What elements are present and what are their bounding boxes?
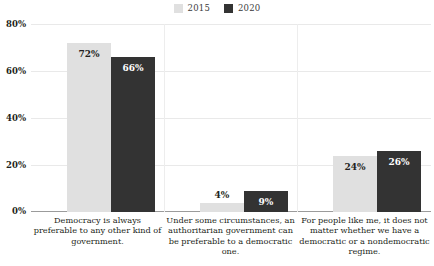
bar-2020-democracy-preferable[interactable]: 66%	[111, 57, 155, 212]
category-label-democracy-preferable: Democracy is always preferable to any ot…	[33, 215, 162, 246]
group-separator-1	[164, 24, 165, 212]
bar-2015-authoritarian-preferable[interactable]: 4%	[200, 203, 244, 212]
bar-2015-democracy-preferable[interactable]: 72%	[67, 43, 111, 212]
plot-area: 80% 60% 40% 20% 0% 72% 66% 4% 9% 24% 26%	[31, 24, 431, 212]
bar-2020-does-not-matter[interactable]: 26%	[377, 151, 421, 212]
group-separator-2	[297, 24, 298, 212]
category-label-authoritarian-preferable: Under some circumstances, an authoritari…	[166, 215, 295, 257]
legend-label-2015: 2015	[188, 4, 210, 13]
legend-item-2015: 2015	[174, 4, 210, 13]
bar-value-label: 66%	[111, 64, 155, 73]
bar-value-label: 72%	[67, 50, 111, 59]
gridline-80: 80%	[31, 24, 431, 25]
bar-value-label: 9%	[244, 198, 288, 207]
ytick-label-40: 40%	[6, 114, 26, 123]
category-label-does-not-matter: For people like me, it does not matter w…	[299, 215, 430, 257]
ytick-label-20: 20%	[6, 161, 26, 170]
legend-swatch-2020	[224, 4, 233, 13]
bar-value-label: 4%	[200, 191, 244, 200]
ytick-label-0: 0%	[12, 207, 26, 216]
category-axis-labels: Democracy is always preferable to any ot…	[31, 215, 431, 266]
legend-item-2020: 2020	[224, 4, 260, 13]
ytick-label-80: 80%	[6, 20, 26, 29]
chart-legend: 2015 2020	[0, 2, 434, 14]
bar-value-label: 26%	[377, 158, 421, 167]
ytick-label-60: 60%	[6, 67, 26, 76]
legend-swatch-2015	[174, 4, 183, 13]
bar-value-label: 24%	[333, 163, 377, 172]
legend-label-2020: 2020	[238, 4, 260, 13]
bar-2015-does-not-matter[interactable]: 24%	[333, 156, 377, 212]
bar-2020-authoritarian-preferable[interactable]: 9%	[244, 191, 288, 212]
